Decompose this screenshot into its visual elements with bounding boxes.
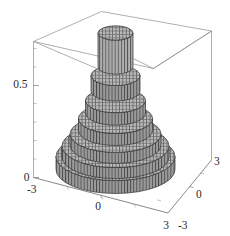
box-edge-overlay-left [34,42,99,70]
plot-canvas: 0.5 0 -3 0 3 -3 0 3 [0,0,230,236]
z-axis-label-zero: 0 [24,171,30,183]
z-axis-label-half: 0.5 [13,78,28,90]
y-axis-label-max: 3 [214,155,220,167]
y-axis-label-min: -3 [178,219,188,231]
z-axis-ticks [34,49,40,178]
surface-plot-figure: 0.5 0 -3 0 3 -3 0 3 [0,0,230,236]
y-axis-label-mid: 0 [196,188,202,200]
x-axis-label-mid: 0 [95,200,101,212]
x-axis-label-min: -3 [27,183,37,195]
surface-step-1 [98,26,133,74]
box-edge-overlay [133,31,212,69]
x-axis-label-max: 3 [163,219,169,231]
